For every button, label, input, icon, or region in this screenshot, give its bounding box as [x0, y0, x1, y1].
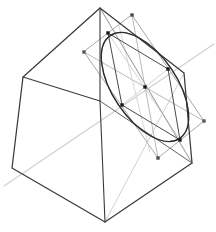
cube-outline-group [12, 8, 192, 222]
marker-parallelogram-vertex-left [82, 50, 85, 53]
geometry-diagram [0, 0, 216, 232]
marker-parallelogram-vertex-bottom [156, 156, 159, 159]
marker-ellipse-center [143, 85, 146, 88]
cube-hidden-edges [100, 8, 192, 222]
figure-canvas: Cube with inscribed ellipse cross-sectio… [0, 0, 216, 232]
marker-tangent-lower-right [178, 138, 181, 141]
marker-tangent-right [166, 67, 169, 70]
marker-tangent-left [120, 103, 123, 106]
cube-inner-edge-to-left [23, 77, 100, 101]
cube-silhouette [12, 8, 192, 222]
marker-parallelogram-vertex-right [202, 119, 205, 122]
marker-parallelogram-vertex-top [130, 13, 133, 16]
marker-tangent-upper-left [106, 31, 109, 34]
